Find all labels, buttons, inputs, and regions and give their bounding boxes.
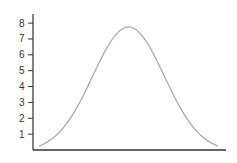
y-tick-label: 6: [19, 49, 25, 60]
y-tick-label: 4: [19, 81, 25, 92]
y-tick-label: 7: [19, 33, 25, 44]
y-ticks: 12345678: [19, 18, 33, 140]
y-tick-label: 8: [19, 18, 25, 29]
y-tick-label: 3: [19, 97, 25, 108]
y-tick-label: 5: [19, 65, 25, 76]
bell-curve-chart: 12345678: [0, 0, 237, 163]
y-tick-label: 2: [19, 113, 25, 124]
y-tick-label: 1: [19, 129, 25, 140]
data-curve: [39, 27, 218, 146]
